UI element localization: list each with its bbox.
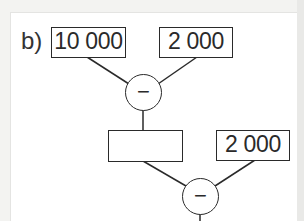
minuend-box: 10 000 xyxy=(51,27,126,58)
problem-label: b) xyxy=(21,26,42,56)
subtrahend-box: 2 000 xyxy=(159,27,233,58)
minus-operator-circle-2: − xyxy=(182,178,219,215)
connector-lines xyxy=(0,0,304,221)
answer-box-empty[interactable] xyxy=(108,130,183,162)
minus-operator-circle: − xyxy=(125,74,162,111)
connector-line xyxy=(87,57,129,84)
connector-line xyxy=(143,161,186,186)
second-subtrahend-box: 2 000 xyxy=(216,130,290,161)
connector-line xyxy=(215,160,255,186)
connector-line xyxy=(158,57,197,84)
